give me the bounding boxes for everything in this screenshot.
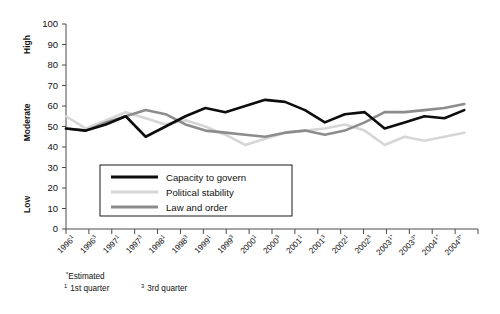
y-tick-label: 80 — [47, 59, 58, 70]
y-tick-label: 60 — [47, 100, 58, 111]
footnote-estimated: *Estimated — [66, 271, 105, 281]
y-zone-label: Moderate — [22, 103, 32, 141]
y-zone-label: Low — [22, 196, 32, 213]
footnote-third-quarter: 33rd quarter — [141, 283, 188, 294]
y-tick-label: 10 — [47, 203, 58, 214]
legend-label: Law and order — [166, 202, 228, 213]
y-tick-label: 50 — [47, 121, 58, 132]
y-tick-label: 30 — [47, 162, 58, 173]
legend-label: Capacity to govern — [166, 172, 246, 183]
y-tick-label: 20 — [47, 182, 58, 193]
chart-legend: Capacity to governPolitical stabilityLaw… — [100, 165, 292, 216]
chart-background — [0, 0, 500, 314]
y-tick-label: 0 — [53, 223, 58, 234]
line-chart: 0102030405060708090100 19961199631997119… — [0, 0, 500, 314]
y-tick-label: 40 — [47, 141, 58, 152]
y-tick-label: 90 — [47, 39, 58, 50]
y-zone-label: High — [22, 35, 32, 54]
chart-container: 0102030405060708090100 19961199631997119… — [0, 0, 500, 314]
y-tick-label: 70 — [47, 80, 58, 91]
y-tick-label: 100 — [42, 18, 58, 29]
footnote-first-quarter: 11st quarter — [64, 283, 110, 294]
legend-label: Political stability — [166, 187, 234, 198]
